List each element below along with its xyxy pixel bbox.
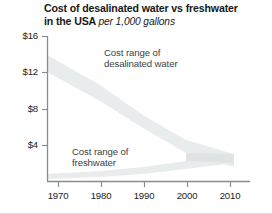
annotation-desalinated-line-1: Cost range of (104, 47, 178, 58)
annotation-desalinated-water: Cost range of desalinated water (104, 47, 178, 70)
x-axis-label-1980: 1980 (81, 190, 121, 201)
annotation-freshwater-line-2: freshwater (72, 157, 128, 168)
plot-area (0, 0, 272, 214)
y-axis-label-8: $8 (4, 103, 38, 114)
chart-figure: Cost of desalinated water vs freshwater … (0, 0, 272, 214)
annotation-freshwater-line-1: Cost range of (72, 146, 128, 157)
x-axis-label-1970: 1970 (38, 190, 78, 201)
x-axis-label-2000: 2000 (167, 190, 207, 201)
x-axis-label-1990: 1990 (124, 190, 164, 201)
x-axis-label-2010: 2010 (210, 190, 250, 201)
y-axis-label-16: $16 (4, 30, 38, 41)
annotation-desalinated-line-2: desalinated water (104, 58, 178, 69)
y-axis-label-4: $4 (4, 139, 38, 150)
plot-svg (0, 0, 272, 214)
annotation-freshwater: Cost range of freshwater (72, 146, 128, 169)
y-axis-label-12: $12 (4, 66, 38, 77)
